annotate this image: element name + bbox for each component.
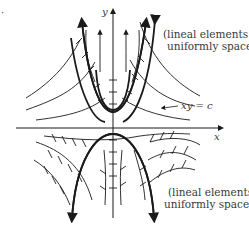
x-axis-label: x [214,131,220,142]
curve-label-pointer [163,106,178,108]
y-axis-label: y [101,6,108,17]
curve-label: xy = c [181,100,213,111]
annotation-top-line1: (lineal elements not [163,28,249,40]
stray-mark: · [1,7,4,18]
annotation-bottom-line1: (lineal elements [168,186,249,198]
annotation-bottom-line2: uniformly spaced) [164,198,249,210]
annotation-top-line2: uniformly spaced) [167,40,249,52]
direction-field-diagram: · y x [0,0,249,228]
